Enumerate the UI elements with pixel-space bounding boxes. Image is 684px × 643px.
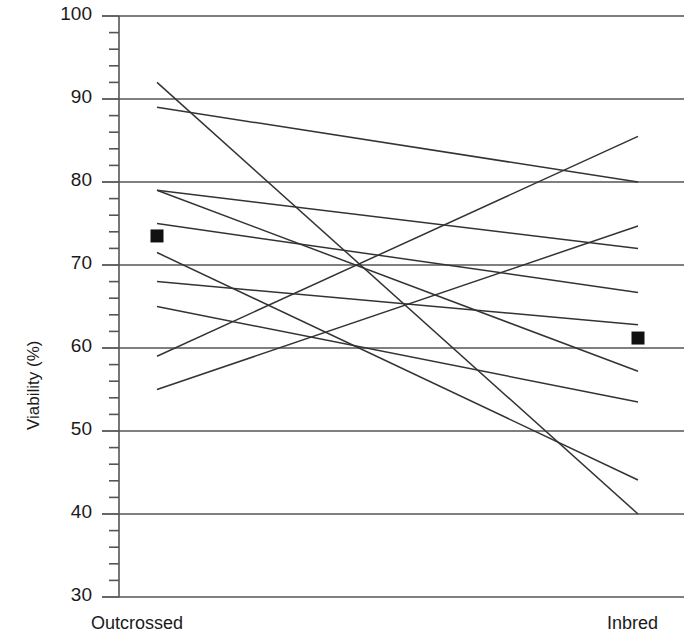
series-line-family-2 [157, 107, 638, 182]
series-line-family-10 [157, 226, 638, 390]
y-tick-label-50: 50 [22, 418, 92, 440]
y-tick-label-30: 30 [22, 584, 92, 606]
y-tick-label-90: 90 [22, 86, 92, 108]
series-line-family-3 [157, 190, 638, 371]
series-line-family-6 [157, 253, 638, 480]
chart-figure: Viability (%) Outcrossed Inbred 30405060… [0, 0, 684, 643]
series-line-family-9 [157, 136, 638, 356]
series-line-family-5 [157, 224, 638, 293]
y-tick-label-100: 100 [22, 3, 92, 25]
y-tick-label-60: 60 [22, 335, 92, 357]
series-line-family-1 [157, 82, 638, 514]
mean-marker-inbred [632, 332, 645, 345]
series-line-family-8 [157, 307, 638, 402]
series-line-family-4 [157, 190, 638, 248]
mean-marker-outcrossed [151, 229, 164, 242]
x-axis-category-outcrossed: Outcrossed [91, 613, 183, 634]
y-tick-label-40: 40 [22, 501, 92, 523]
plot-area [0, 0, 684, 643]
x-axis-category-inbred: Inbred [607, 613, 658, 634]
y-tick-label-80: 80 [22, 169, 92, 191]
y-tick-label-70: 70 [22, 252, 92, 274]
series-lines-group [157, 82, 638, 514]
major-ticks-group [102, 16, 119, 597]
series-line-family-7 [157, 282, 638, 325]
minor-ticks-group [109, 33, 119, 581]
